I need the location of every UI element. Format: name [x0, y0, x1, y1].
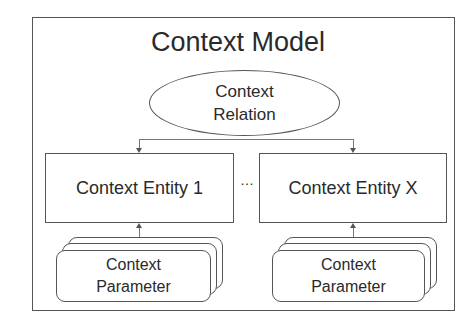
- context-entity-x: Context Entity X: [259, 153, 447, 223]
- connector-horizontal: [139, 139, 354, 140]
- entity-label: Context Entity 1: [76, 178, 203, 199]
- relation-label-line1: Context: [213, 80, 275, 103]
- ellipsis-separator: …: [238, 172, 256, 188]
- context-relation-node: Context Relation: [149, 70, 340, 136]
- parameter-label-line2: Parameter: [96, 276, 171, 298]
- relation-label-line2: Relation: [213, 103, 275, 126]
- diagram-title: Context Model: [0, 27, 476, 58]
- context-parameter-left: Context Parameter: [56, 250, 211, 302]
- arrow-up-icon: [350, 223, 356, 228]
- arrow-up-icon: [136, 223, 142, 228]
- parameter-label-line2: Parameter: [311, 276, 386, 298]
- entity-label: Context Entity X: [288, 178, 417, 199]
- context-entity-1: Context Entity 1: [45, 153, 234, 223]
- parameter-label-line1: Context: [96, 254, 171, 276]
- context-parameter-right: Context Parameter: [272, 250, 425, 302]
- parameter-label-line1: Context: [311, 254, 386, 276]
